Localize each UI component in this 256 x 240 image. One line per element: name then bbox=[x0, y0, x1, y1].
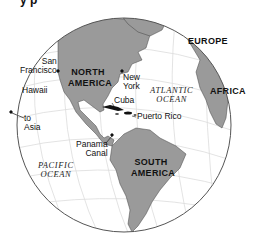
label-panama-canal: Panama Canal bbox=[76, 140, 108, 158]
label-europe: EUROPE bbox=[188, 37, 228, 46]
label-pacific-ocean: PACIFIC OCEAN bbox=[38, 161, 74, 179]
panama-dot bbox=[111, 134, 113, 136]
label-to-asia: to Asia bbox=[24, 114, 41, 132]
label-africa: AFRICA bbox=[210, 87, 246, 96]
title-fragment: y p bbox=[20, 0, 37, 7]
label-new-york: New York bbox=[123, 73, 140, 91]
san-francisco-dot bbox=[57, 70, 59, 72]
label-atlantic-ocean: ATLANTIC OCEAN bbox=[150, 86, 193, 104]
label-south-america: SOUTH AMERICA bbox=[131, 157, 171, 179]
to-asia-dot bbox=[10, 111, 12, 113]
label-san-francisco: San Francisco bbox=[20, 57, 57, 75]
label-north-america: NORTH AMERICA bbox=[68, 67, 108, 89]
label-puerto-rico: Puerto Rico bbox=[137, 112, 181, 121]
label-hawaii: Hawaii bbox=[22, 86, 48, 95]
hispaniola-island bbox=[124, 112, 132, 115]
label-cuba: Cuba bbox=[114, 96, 134, 105]
jamaica-island bbox=[115, 113, 119, 115]
